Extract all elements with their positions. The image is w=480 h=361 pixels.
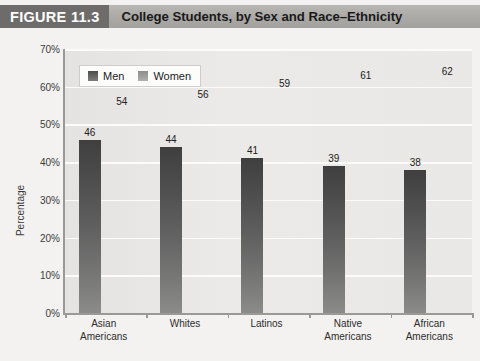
y-tick-label: 50% — [26, 119, 60, 130]
bar-women: 59 — [273, 91, 295, 314]
figure-container: FIGURE 11.3 College Students, by Sex and… — [0, 0, 480, 361]
y-tick-label: 40% — [26, 157, 60, 168]
figure-number-label: FIGURE 11.3 — [10, 9, 100, 25]
x-category-label: AsianAmericans — [80, 318, 127, 343]
x-category-label: AfricanAmericans — [406, 318, 453, 343]
women-swatch-icon — [138, 71, 148, 81]
bar-value-label: 44 — [166, 134, 177, 145]
bars-layer: 46544456415939613862 — [65, 49, 472, 313]
bar-value-label: 59 — [279, 78, 290, 89]
x-category-label: NativeAmericans — [324, 318, 371, 343]
bar-men: 38 — [404, 170, 426, 313]
y-axis-title-text: Percentage — [16, 184, 27, 235]
bar-value-label: 41 — [247, 145, 258, 156]
bar-value-label: 62 — [442, 66, 453, 77]
bar-value-label: 46 — [84, 127, 95, 138]
plot-area: 46544456415939613862 Men Women — [63, 49, 472, 315]
x-category-label: Whites — [170, 318, 201, 331]
bar-group: 3862 — [391, 49, 472, 313]
legend-entry-women: Women — [138, 70, 191, 82]
bar-women: 56 — [192, 102, 214, 313]
bar-women: 62 — [436, 79, 458, 313]
x-axis-category-labels: AsianAmericansWhitesLatinosNativeAmerica… — [63, 318, 470, 360]
y-tick-label: 20% — [26, 232, 60, 243]
chart-canvas: Percentage 0%10%20%30%40%50%60%70% 46544… — [0, 28, 480, 361]
x-category-label: Latinos — [250, 318, 282, 331]
y-tick-label: 70% — [26, 44, 60, 55]
bar-group: 3961 — [309, 49, 390, 313]
y-tick-label: 0% — [26, 308, 60, 319]
men-swatch-icon — [88, 71, 98, 81]
bar-men: 44 — [160, 147, 182, 313]
figure-title-band: FIGURE 11.3 College Students, by Sex and… — [0, 5, 480, 28]
y-axis-tick-labels: 0%10%20%30%40%50%60%70% — [26, 28, 60, 361]
bar-men: 46 — [79, 140, 101, 313]
bar-value-label: 61 — [360, 70, 371, 81]
bar-value-label: 56 — [198, 89, 209, 100]
bar-women: 61 — [355, 83, 377, 313]
bar-men: 39 — [323, 166, 345, 313]
legend-entry-men: Men — [88, 70, 124, 82]
bar-group: 4159 — [228, 49, 309, 313]
bar-value-label: 38 — [410, 157, 421, 168]
bar-value-label: 39 — [328, 153, 339, 164]
x-tick — [472, 313, 474, 318]
bar-women: 54 — [111, 109, 133, 313]
bar-value-label: 54 — [116, 96, 127, 107]
bar-group: 4654 — [65, 49, 146, 313]
y-tick-label: 10% — [26, 270, 60, 281]
y-tick-label: 60% — [26, 81, 60, 92]
bar-group: 4456 — [146, 49, 227, 313]
legend-label-men: Men — [103, 70, 124, 82]
bar-men: 41 — [241, 158, 263, 313]
figure-title: College Students, by Sex and Race–Ethnic… — [109, 9, 403, 24]
legend-label-women: Women — [153, 70, 191, 82]
figure-number-block: FIGURE 11.3 — [0, 5, 109, 28]
y-tick-label: 30% — [26, 194, 60, 205]
chart-legend: Men Women — [79, 65, 201, 87]
